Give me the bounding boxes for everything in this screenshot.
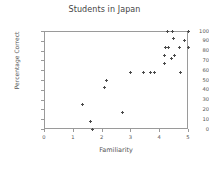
x-tick-mark: [44, 129, 45, 132]
y-tick-label: 100: [185, 29, 209, 34]
x-tick-mark: [73, 129, 74, 132]
x-tick-label: 4: [151, 134, 167, 140]
y-tick-label: 20: [185, 107, 209, 112]
y-tick-label: 80: [185, 48, 209, 53]
y-tick-label: 70: [185, 58, 209, 63]
x-tick-label: 5: [180, 134, 196, 140]
x-tick-label: 2: [94, 134, 110, 140]
y-tick-label: 30: [185, 97, 209, 102]
x-tick-label: 0: [36, 134, 52, 140]
x-tick-mark: [130, 129, 131, 132]
plot-area: [44, 31, 188, 129]
y-axis-label: Percentage Correct: [13, 18, 20, 104]
x-tick-mark: [188, 129, 189, 132]
y-tick-label: 50: [185, 78, 209, 83]
chart-title: Students in Japan: [0, 5, 209, 14]
x-axis-label: Familiarity: [44, 146, 188, 154]
y-tick-label: 10: [185, 117, 209, 122]
scatter-plot-figure: Students in Japan Percentage Correct 010…: [0, 0, 209, 170]
y-tick-label: 90: [185, 38, 209, 43]
x-tick-mark: [159, 129, 160, 132]
x-tick-label: 3: [122, 134, 138, 140]
y-tick-label: 60: [185, 68, 209, 73]
x-tick-label: 1: [65, 134, 81, 140]
x-tick-mark: [102, 129, 103, 132]
y-tick-label: 40: [185, 87, 209, 92]
